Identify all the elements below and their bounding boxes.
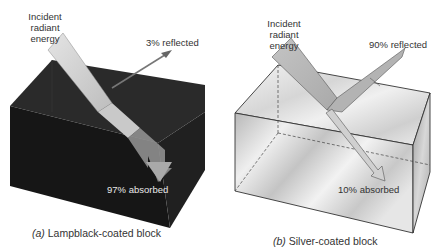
caption-b: (b) Silver-coated block: [273, 235, 378, 247]
incident-label-a-line2: radiant: [30, 22, 59, 33]
incident-label-b-line3: energy: [269, 40, 298, 51]
caption-b-text: Silver-coated block: [286, 235, 378, 247]
caption-b-letter: (b): [273, 235, 286, 247]
panel-silver: Incident radiant energy 90% reflected 10…: [235, 18, 430, 247]
absorbed-label-a: 97% absorbed: [107, 184, 168, 195]
incident-label-a-line1: Incident: [28, 11, 62, 22]
radiant-energy-diagram: Incident radiant energy 3% reflected 97%…: [0, 0, 439, 252]
caption-a-letter: (a): [32, 227, 45, 239]
incident-label-b-line1: Incident: [267, 18, 301, 29]
reflected-label-a: 3% reflected: [146, 37, 199, 48]
caption-a-text: Lampblack-coated block: [45, 227, 162, 239]
reflected-label-b: 90% reflected: [369, 39, 427, 50]
incident-label-a-line3: energy: [30, 33, 59, 44]
caption-a: (a) Lampblack-coated block: [32, 227, 162, 239]
panel-lampblack: Incident radiant energy 3% reflected 97%…: [10, 11, 205, 239]
absorbed-label-b: 10% absorbed: [338, 184, 399, 195]
incident-label-b-line2: radiant: [269, 29, 298, 40]
